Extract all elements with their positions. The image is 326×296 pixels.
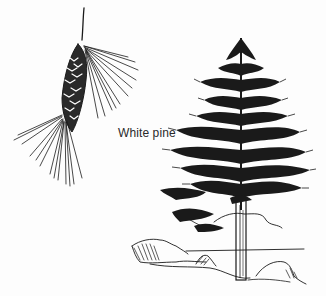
rocks-and-ground — [132, 213, 306, 284]
species-label: White pine — [118, 126, 176, 140]
white-pine-illustration — [0, 0, 326, 296]
white-pine-tree — [160, 38, 316, 280]
pine-cone-sprig — [14, 8, 138, 186]
illustration-canvas: White pine — [0, 0, 326, 296]
